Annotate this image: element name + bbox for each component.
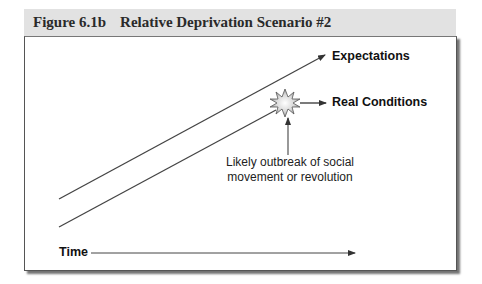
diagram-canvas [0, 0, 482, 284]
starburst-icon [270, 89, 300, 117]
event-caption-line-2: movement or revolution [220, 170, 360, 185]
real-conditions-label: Real Conditions [332, 95, 427, 109]
expectations-label: Expectations [332, 49, 410, 63]
time-axis-label: Time [59, 245, 88, 259]
event-caption-line-1: Likely outbreak of social [220, 155, 360, 170]
event-caption: Likely outbreak of social movement or re… [220, 155, 360, 185]
